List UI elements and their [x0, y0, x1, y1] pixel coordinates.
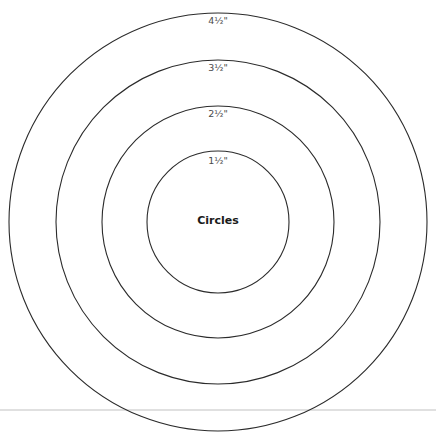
label-4-5-inch: 4½"	[208, 16, 228, 26]
label-3-5-inch: 3½"	[208, 63, 228, 73]
label-2-5-inch: 2½"	[208, 109, 228, 119]
diagram-title: Circles	[197, 214, 239, 227]
label-1-5-inch: 1½"	[208, 156, 228, 166]
